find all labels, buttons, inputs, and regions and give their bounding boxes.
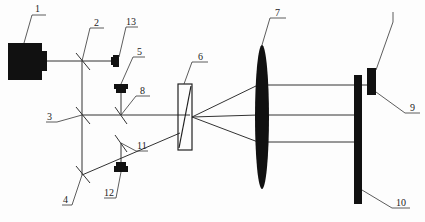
label-9: 9	[410, 102, 415, 113]
laser-source-1	[8, 43, 42, 80]
label-2: 2	[94, 17, 99, 28]
label-11: 11	[137, 140, 147, 151]
label-3: 3	[47, 111, 52, 122]
label-10: 10	[396, 197, 406, 208]
lens-7	[255, 45, 269, 189]
block-9	[367, 68, 376, 95]
label-13: 13	[126, 16, 136, 27]
diagram-svg: 1 2 3 4 5 6 7 8 9 10 11 12 13	[0, 0, 425, 222]
mirror-4	[76, 166, 90, 183]
label-8: 8	[140, 85, 145, 96]
label-6: 6	[198, 51, 203, 62]
beam-paths	[47, 61, 367, 175]
optical-diagram: 1 2 3 4 5 6 7 8 9 10 11 12 13	[0, 0, 425, 222]
label-5: 5	[137, 46, 142, 57]
label-12: 12	[104, 187, 114, 198]
label-4: 4	[63, 194, 68, 205]
plate-10	[354, 75, 362, 204]
label-7: 7	[275, 7, 280, 18]
label-1: 1	[35, 3, 40, 14]
